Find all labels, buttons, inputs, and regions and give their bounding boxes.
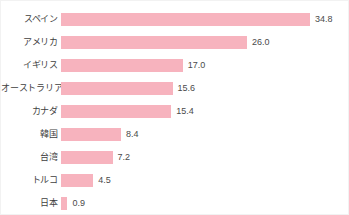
bar[interactable] xyxy=(61,82,173,95)
bar-row[interactable]: イギリス 17.0 xyxy=(1,54,348,77)
bar-track: 7.2 xyxy=(61,146,348,169)
value-label: 34.8 xyxy=(310,15,333,24)
bar-chart: スペイン 34.8 アメリカ 26.0 イギリス 17.0 オーストラリア xyxy=(0,0,349,215)
bar-row[interactable]: スペイン 34.8 xyxy=(1,8,348,31)
bar-track: 17.0 xyxy=(61,54,348,77)
category-label: オーストラリア xyxy=(1,84,61,93)
category-label: 日本 xyxy=(1,199,61,208)
bar[interactable] xyxy=(61,174,93,187)
plot-area: スペイン 34.8 アメリカ 26.0 イギリス 17.0 オーストラリア xyxy=(1,1,348,214)
value-label: 0.9 xyxy=(67,199,85,208)
category-label: スペイン xyxy=(1,15,61,24)
value-label: 15.4 xyxy=(171,107,194,116)
bar-row[interactable]: オーストラリア 15.6 xyxy=(1,77,348,100)
value-label: 4.5 xyxy=(93,176,111,185)
bar-track: 8.4 xyxy=(61,123,348,146)
category-label: トルコ xyxy=(1,176,61,185)
category-label: 台湾 xyxy=(1,153,61,162)
bar-track: 4.5 xyxy=(61,169,348,192)
value-label: 17.0 xyxy=(183,61,206,70)
bar[interactable] xyxy=(61,151,113,164)
bar-row[interactable]: 台湾 7.2 xyxy=(1,146,348,169)
bar-track: 26.0 xyxy=(61,31,348,54)
bar[interactable] xyxy=(61,36,247,49)
bar-row[interactable]: カナダ 15.4 xyxy=(1,100,348,123)
bar[interactable] xyxy=(61,105,171,118)
category-label: イギリス xyxy=(1,61,61,70)
bar-row[interactable]: 韓国 8.4 xyxy=(1,123,348,146)
bar-track: 0.9 xyxy=(61,192,348,215)
bar-row[interactable]: 日本 0.9 xyxy=(1,192,348,215)
category-label: アメリカ xyxy=(1,38,61,47)
bar-row[interactable]: トルコ 4.5 xyxy=(1,169,348,192)
bar-track: 15.6 xyxy=(61,77,348,100)
bar-track: 34.8 xyxy=(61,8,348,31)
value-label: 7.2 xyxy=(113,153,131,162)
value-label: 15.6 xyxy=(173,84,196,93)
bar[interactable] xyxy=(61,128,121,141)
bar[interactable] xyxy=(61,59,183,72)
value-label: 8.4 xyxy=(121,130,139,139)
bar[interactable] xyxy=(61,13,310,26)
category-label: カナダ xyxy=(1,107,61,116)
value-label: 26.0 xyxy=(247,38,270,47)
bar-row[interactable]: アメリカ 26.0 xyxy=(1,31,348,54)
category-label: 韓国 xyxy=(1,130,61,139)
bar-track: 15.4 xyxy=(61,100,348,123)
